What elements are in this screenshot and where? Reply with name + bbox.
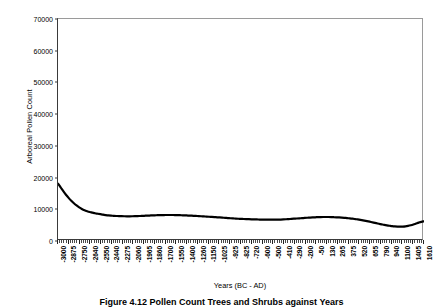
x-axis-tick-mark-minor [141,240,142,243]
x-axis-tick-mark-major [358,240,359,244]
x-axis-tick-mark-minor [408,240,409,243]
x-axis-tick-mark-major [154,240,155,244]
x-axis-tick-label: -500 [275,246,282,259]
x-axis-tick-mark-minor [328,240,329,243]
x-axis-tick-mark-minor [324,240,325,243]
x-axis-tick-mark-minor [371,240,372,243]
x-axis-tick-mark-minor [244,240,245,243]
x-axis-tick-mark-minor [150,240,151,243]
figure-caption: Figure 4.12 Pollen Count Trees and Shrub… [0,297,443,307]
x-axis-tick-mark-minor [307,240,308,243]
x-axis-tick-mark-minor [180,240,181,243]
x-axis-tick-mark-minor [309,240,310,243]
x-axis-tick-mark-minor [70,240,71,243]
x-axis-tick-label: -2875 [70,246,77,262]
x-axis-tick-mark-major [326,240,327,244]
x-axis-tick-mark-minor [399,240,400,243]
x-axis-tick-mark-minor [274,240,275,243]
x-axis-tick-mark-major [240,240,241,244]
x-axis-tick-mark-minor [318,240,319,243]
x-axis-tick-mark-minor [300,240,301,243]
x-axis-tick-mark-minor [162,240,163,243]
x-axis-tick-mark-minor [72,240,73,243]
x-axis-tick-mark-minor [212,240,213,243]
x-axis-tick-mark-minor [137,240,138,243]
x-axis-tick-mark-minor [345,240,346,243]
x-axis-tick-mark-minor [96,240,97,243]
x-axis-tick-mark-minor [242,240,243,243]
x-axis-tick-mark-minor [253,240,254,243]
x-axis-tick-mark-major [143,240,144,244]
x-axis-tick-mark-minor [421,240,422,243]
x-axis-tick-mark-minor [188,240,189,243]
x-axis-tick-mark-minor [87,240,88,243]
x-axis-tick-label: -1400 [189,246,196,262]
x-axis-tick-mark-minor [178,240,179,243]
x-axis-tick-mark-minor [102,240,103,243]
x-axis-tick-label: -2750 [81,246,88,262]
x-axis-tick-mark-major [272,240,273,244]
x-axis-tick-label: 790 [383,246,390,257]
x-axis-tick-label: 1405 [415,246,422,260]
x-axis-tick-mark-minor [378,240,379,243]
x-axis-tick-label: -720 [253,246,260,259]
x-axis-tick-mark-minor [249,240,250,243]
x-axis-tick-mark-major [423,240,424,244]
x-axis-tick-mark-minor [85,240,86,243]
x-axis-tick-mark-minor [376,240,377,243]
x-axis-tick-mark-minor [221,240,222,243]
x-axis-tick-label: -925 [232,246,239,259]
x-axis-tick-mark-minor [352,240,353,243]
x-axis-tick-mark-minor [238,240,239,243]
x-axis-tick-label: -2275 [124,246,131,262]
x-axis-tick-mark-minor [270,240,271,243]
x-axis-tick-mark-major [294,240,295,244]
x-axis-tick-label: -410 [286,246,293,259]
x-axis-tick-label: -1260 [200,246,207,262]
x-axis-tick-label: -825 [243,246,250,259]
x-axis-tick-label: -1025 [221,246,228,262]
x-axis-tick-label: 1100 [404,246,411,260]
x-axis-tick-mark-minor [98,240,99,243]
x-axis-tick-mark-minor [341,240,342,243]
x-axis-tick-mark-major [391,240,392,244]
x-axis-tick-mark-major [57,240,58,244]
x-axis-tick-mark-minor [389,240,390,243]
x-axis-tick-mark-minor [259,240,260,243]
x-axis-tick-label: 940 [393,246,400,257]
x-axis-tick-mark-minor [167,240,168,243]
series-line-host [58,19,422,239]
x-axis-tick-mark-minor [171,240,172,243]
x-axis-tick-mark-minor [81,240,82,243]
x-axis-tick-mark-minor [128,240,129,243]
x-axis-tick-mark-minor [404,240,405,243]
x-axis-tick-label: -1150 [210,246,217,262]
x-axis-tick-mark-minor [322,240,323,243]
x-axis-tick-mark-minor [169,240,170,243]
series-line [58,184,424,227]
x-axis-tick-label: -600 [264,246,271,259]
x-axis-tick-mark-minor [182,240,183,243]
x-axis-tick-mark-minor [66,240,67,243]
chart-svg [58,19,424,241]
x-axis-tick-label: -2060 [135,246,142,262]
x-axis-tick-mark-minor [339,240,340,243]
x-axis-tick-mark-minor [184,240,185,243]
x-axis-tick-mark-major [380,240,381,244]
x-axis-tick-mark-minor [223,240,224,243]
x-axis-tick-mark-major [68,240,69,244]
x-axis-tick-mark-minor [63,240,64,243]
x-axis-tick-mark-major [208,240,209,244]
x-axis-tick-mark-minor [397,240,398,243]
x-axis-tick-mark-minor [199,240,200,243]
x-axis-tick-mark-minor [236,240,237,243]
x-axis-tick-mark-minor [158,240,159,243]
x-axis-tick-mark-minor [227,240,228,243]
x-axis-tick-mark-major [132,240,133,244]
x-axis-tick-mark-minor [193,240,194,243]
x-axis-tick-mark-minor [257,240,258,243]
x-axis-tick-mark-minor [373,240,374,243]
x-axis-tick-label: 375 [350,246,357,257]
x-axis-tick-mark-major [251,240,252,244]
x-axis-tick-mark-minor [152,240,153,243]
